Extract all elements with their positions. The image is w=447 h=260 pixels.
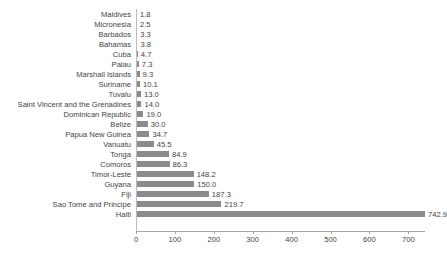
bar xyxy=(136,131,149,137)
bar-row: Timor-Leste148.2 xyxy=(0,169,446,179)
bar-value-label: 34.7 xyxy=(152,130,167,139)
category-label: Barbados xyxy=(98,30,131,39)
bar-value-label: 187.3 xyxy=(212,190,231,199)
bar xyxy=(136,111,143,117)
category-label: Timor-Leste xyxy=(91,170,131,179)
bar-value-label: 84.9 xyxy=(172,150,187,159)
bar-track: 3.3 xyxy=(136,29,446,39)
bar-track: 9.3 xyxy=(136,69,446,79)
bar-track: 10.1 xyxy=(136,79,446,89)
bar xyxy=(136,151,169,157)
bar-value-label: 30.0 xyxy=(151,120,166,129)
category-label: Bahamas xyxy=(99,40,131,49)
bar-row: Saint Vincent and the Grenadines14.0 xyxy=(0,99,446,109)
bar xyxy=(136,141,154,147)
bar-value-label: 86.3 xyxy=(173,160,188,169)
x-axis-tick-label: 400 xyxy=(285,235,298,245)
x-axis-tick xyxy=(136,231,137,234)
bar-row: Comoros86.3 xyxy=(0,159,446,169)
bar-value-label: 10.1 xyxy=(143,80,158,89)
bar-row: Micronesia2.5 xyxy=(0,19,446,29)
bar xyxy=(136,181,194,187)
x-axis-tick xyxy=(253,231,254,234)
bar-track: 86.3 xyxy=(136,159,446,169)
bar-row: Dominican Republic19.0 xyxy=(0,109,446,119)
bar xyxy=(136,171,194,177)
category-label: Palau xyxy=(112,60,131,69)
bar-row: Suriname10.1 xyxy=(0,79,446,89)
category-label: Dominican Republic xyxy=(63,110,131,119)
bar-track: 84.9 xyxy=(136,149,446,159)
x-axis-tick-label: 0 xyxy=(134,235,138,245)
bar-value-label: 1.8 xyxy=(140,10,151,19)
category-label: Saint Vincent and the Grenadines xyxy=(18,100,131,109)
bar xyxy=(136,121,148,127)
category-label: Guyana xyxy=(104,180,131,189)
x-axis-tick xyxy=(408,231,409,234)
x-axis-tick-label: 100 xyxy=(169,235,182,245)
bar-row: Maldives1.8 xyxy=(0,9,446,19)
category-label: Suriname xyxy=(99,80,132,89)
bar-track: 34.7 xyxy=(136,129,446,139)
bar-track: 3.8 xyxy=(136,39,446,49)
bar-row: Haiti742.9 xyxy=(0,209,446,219)
x-axis-tick xyxy=(369,231,370,234)
bar-track: 19.0 xyxy=(136,109,446,119)
bar-row: Marshall Islands9.3 xyxy=(0,69,446,79)
bar-row: Tuvalu13.0 xyxy=(0,89,446,99)
bar-value-label: 45.5 xyxy=(157,140,172,149)
bar xyxy=(136,161,170,167)
bar-track: 45.5 xyxy=(136,139,446,149)
bar-track: 7.3 xyxy=(136,59,446,69)
bar-value-label: 13.0 xyxy=(144,90,159,99)
bar-value-label: 742.9 xyxy=(428,210,447,219)
x-axis-tick xyxy=(331,231,332,234)
bar-row: Vanuatu45.5 xyxy=(0,139,446,149)
bar-track: 742.9 xyxy=(136,209,446,219)
category-label: Vanuatu xyxy=(103,140,131,149)
category-label: Fiji xyxy=(121,190,131,199)
bar xyxy=(136,201,221,207)
bar-row: Barbados3.3 xyxy=(0,29,446,39)
bar-value-label: 3.3 xyxy=(140,30,151,39)
x-axis-tick-label: 300 xyxy=(246,235,259,245)
bar-row: Belize30.0 xyxy=(0,119,446,129)
x-axis-tick xyxy=(292,231,293,234)
bar-value-label: 7.3 xyxy=(142,60,153,69)
bar-value-label: 9.3 xyxy=(143,70,154,79)
bar-row: Sao Tome and Principe219.7 xyxy=(0,199,446,209)
bar-track: 4.7 xyxy=(136,49,446,59)
bar-track: 219.7 xyxy=(136,199,446,209)
bar-row: Cuba4.7 xyxy=(0,49,446,59)
category-label: Papua New Guinea xyxy=(65,130,131,139)
bar xyxy=(136,191,209,197)
bar-value-label: 150.0 xyxy=(197,180,216,189)
bar-row: Tonga84.9 xyxy=(0,149,446,159)
bar-track: 150.0 xyxy=(136,179,446,189)
bar-value-label: 3.8 xyxy=(140,40,151,49)
category-label: Marshall Islands xyxy=(76,70,131,79)
bar-row: Palau7.3 xyxy=(0,59,446,69)
category-label: Belize xyxy=(110,120,131,129)
x-axis-line xyxy=(136,231,425,232)
bar-row: Papua New Guinea34.7 xyxy=(0,129,446,139)
x-axis-tick xyxy=(214,231,215,234)
bar-value-label: 14.0 xyxy=(144,100,159,109)
x-axis-tick xyxy=(175,231,176,234)
bar-row: Fiji187.3 xyxy=(0,189,446,199)
x-axis-tick-label: 600 xyxy=(363,235,376,245)
category-label: Micronesia xyxy=(94,20,131,29)
bar-value-label: 4.7 xyxy=(141,50,152,59)
bar-row: Bahamas3.8 xyxy=(0,39,446,49)
category-label: Maldives xyxy=(101,10,131,19)
x-axis-tick-label: 200 xyxy=(207,235,220,245)
category-label: Comoros xyxy=(100,160,131,169)
bar-value-label: 148.2 xyxy=(197,170,216,179)
bar xyxy=(136,211,425,217)
x-axis-tick-label: 500 xyxy=(324,235,337,245)
bar-value-label: 2.5 xyxy=(140,20,151,29)
bar-track: 30.0 xyxy=(136,119,446,129)
category-label: Tonga xyxy=(110,150,131,159)
bar-track: 187.3 xyxy=(136,189,446,199)
